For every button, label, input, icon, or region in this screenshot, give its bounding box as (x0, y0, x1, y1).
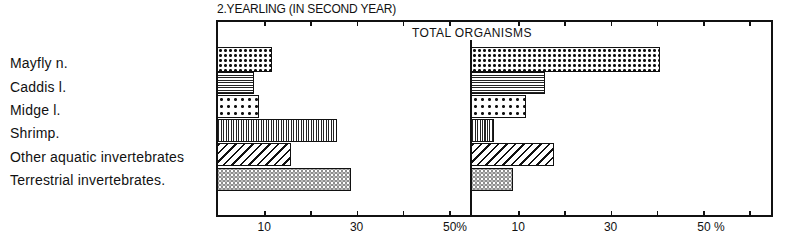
x-tick-label-right: 30 (604, 220, 617, 234)
x-tick-left-top (357, 21, 359, 26)
x-tick-right (564, 211, 566, 216)
x-tick-label-left: 30 (350, 220, 363, 234)
left-panel-bar (217, 95, 259, 118)
frame-bottom-line (216, 215, 773, 217)
category-label: Shrimp. (10, 125, 60, 141)
left-panel-bar (217, 143, 291, 166)
right-panel-bar (471, 168, 513, 191)
x-tick-left-top (264, 21, 266, 26)
frame-right-line (771, 20, 773, 217)
x-tick-left (264, 211, 266, 216)
category-label: Terrestrial invertebrates. (10, 172, 165, 188)
x-tick-right (518, 211, 520, 216)
x-tick-left-top (449, 21, 451, 26)
x-tick-right-top (518, 21, 520, 26)
x-tick-right-top (749, 21, 751, 26)
left-panel-bar (217, 168, 351, 191)
x-tick-label-left: 50% (443, 220, 467, 234)
x-tick-right-top (564, 21, 566, 26)
category-label: Caddis l. (10, 79, 66, 95)
category-label: Other aquatic invertebrates (10, 149, 184, 165)
figure-title: 2.YEARLING (IN SECOND YEAR) (217, 2, 396, 16)
x-tick-right-top (703, 21, 705, 26)
x-tick-left (310, 211, 312, 216)
right-panel-bar (471, 72, 545, 94)
x-tick-label-right: 10 (512, 220, 525, 234)
left-panel-bar (217, 119, 337, 142)
x-tick-left-top (403, 21, 405, 26)
x-tick-left (403, 211, 405, 216)
right-panel-bar (471, 119, 494, 142)
category-label: Midge l. (10, 102, 61, 118)
right-panel-bar (471, 143, 554, 166)
x-tick-right-top (657, 21, 659, 26)
right-panel-bar (471, 47, 660, 72)
left-panel-bar (217, 72, 254, 94)
x-tick-right (749, 211, 751, 216)
x-tick-left (449, 211, 451, 216)
right-panel-bar (471, 95, 526, 118)
x-tick-right (657, 211, 659, 216)
x-tick-right-top (611, 21, 613, 26)
x-tick-right (703, 211, 705, 216)
panel-title: TOTAL ORGANISMS (412, 26, 532, 40)
x-tick-label-left: 10 (258, 220, 271, 234)
left-panel-bar (217, 47, 272, 72)
x-tick-label-right: 50 % (697, 220, 724, 234)
x-tick-right (611, 211, 613, 216)
x-tick-left (357, 211, 359, 216)
frame-top-line (216, 20, 773, 22)
x-tick-left-top (310, 21, 312, 26)
category-label: Mayfly n. (10, 55, 68, 71)
